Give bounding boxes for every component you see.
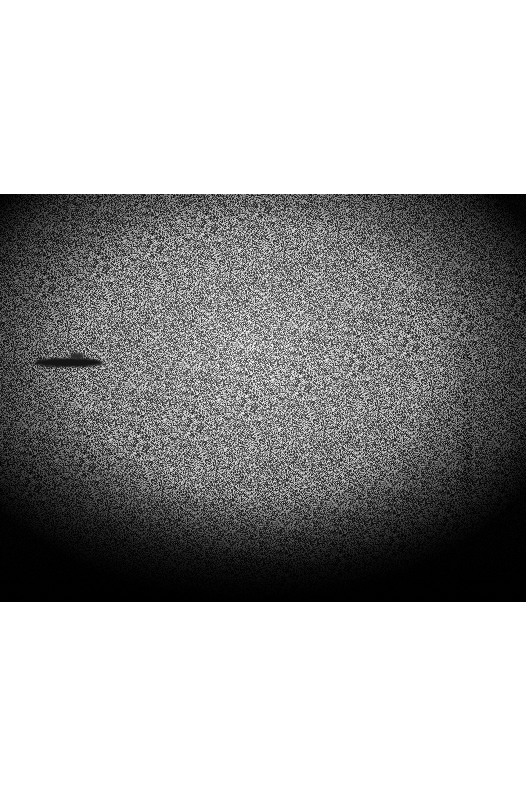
photograph: Grainy black-and-white photograph with h… xyxy=(0,194,526,602)
page: Grainy black-and-white photograph with h… xyxy=(0,0,526,808)
noise-photo-canvas xyxy=(0,194,526,602)
